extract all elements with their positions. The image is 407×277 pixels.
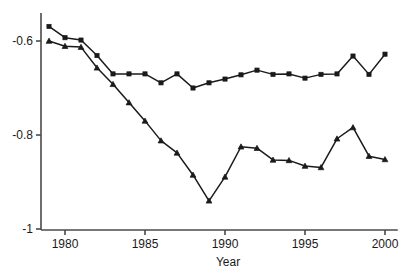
data-point-marker (143, 72, 147, 76)
data-point-marker (335, 72, 339, 76)
plot-area (0, 0, 407, 277)
data-point-marker (111, 72, 115, 76)
x-tick-label: 1990 (205, 238, 245, 250)
data-point-marker (79, 38, 83, 42)
y-tick-label: -0.8 (3, 129, 33, 141)
x-tick-label: 1985 (125, 238, 165, 250)
y-tick-label: -1 (3, 223, 33, 235)
data-point-marker (63, 36, 67, 40)
data-point-marker (383, 52, 387, 56)
data-point-marker (46, 38, 52, 43)
chart-figure: Year -0.6-0.8-119801985199019952000 (0, 0, 407, 277)
data-point-marker (175, 72, 179, 76)
data-point-marker (319, 72, 323, 76)
data-point-marker (47, 24, 51, 28)
data-point-marker (239, 73, 243, 77)
series-lower-series (46, 38, 388, 203)
x-tick-label: 1995 (285, 238, 325, 250)
data-point-marker (95, 53, 99, 57)
data-point-marker (303, 76, 307, 80)
data-point-marker (223, 77, 227, 81)
x-axis-title: Year (178, 256, 278, 268)
data-point-marker (207, 81, 211, 85)
data-point-marker (351, 54, 355, 58)
data-point-marker (127, 72, 131, 76)
data-point-marker (271, 72, 275, 76)
data-point-marker (287, 72, 291, 76)
data-point-marker (255, 68, 259, 72)
x-tick-label: 2000 (365, 238, 405, 250)
data-point-marker (222, 174, 228, 179)
y-tick-label: -0.6 (3, 35, 33, 47)
data-point-marker (367, 72, 371, 76)
series-line (49, 41, 385, 201)
data-point-marker (191, 86, 195, 90)
data-point-marker (350, 125, 356, 130)
x-tick-label: 1980 (45, 238, 85, 250)
series-upper-series (47, 24, 387, 90)
data-point-marker (159, 81, 163, 85)
